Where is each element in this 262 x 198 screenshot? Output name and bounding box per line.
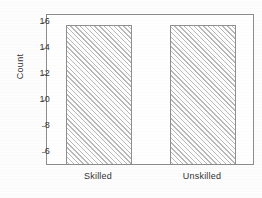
plot-frame: [46, 14, 254, 165]
y-tick-label: 10: [28, 95, 50, 104]
y-tick-label: 12: [28, 69, 50, 78]
y-tick-mark: [42, 48, 46, 49]
y-tick-mark: [42, 100, 46, 101]
bar: [66, 25, 133, 164]
bar-chart-figure: 1614121086 Count SkilledUnskilled: [0, 0, 262, 198]
y-tick-label: 16: [28, 17, 50, 26]
y-tick-mark: [42, 22, 46, 23]
bar: [170, 25, 237, 164]
y-tick-label: 14: [28, 43, 50, 52]
y-tick-mark: [42, 74, 46, 75]
y-tick-label: 6: [28, 147, 50, 156]
y-tick-mark: [42, 126, 46, 127]
y-tick-mark: [42, 152, 46, 153]
x-tick-label: Unskilled: [162, 172, 242, 181]
bars-area: [47, 15, 253, 164]
y-tick-label: 8: [28, 121, 50, 130]
y-axis-label: Count: [16, 39, 25, 95]
x-tick-label: Skilled: [58, 172, 138, 181]
